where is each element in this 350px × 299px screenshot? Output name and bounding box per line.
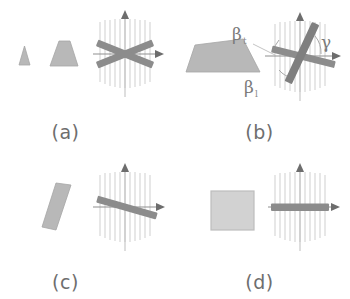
label-beta-l-sub: l — [255, 89, 258, 99]
wedge-shape — [186, 39, 260, 72]
panel-c-caption: (c) — [0, 271, 153, 293]
figure-canvas: (a) — [0, 0, 350, 299]
square-shape — [211, 191, 254, 230]
vertical-arrow-icon — [296, 163, 304, 172]
horizontal-arrow-icon — [155, 50, 164, 58]
label-beta-l: β — [244, 77, 254, 97]
label-beta-t: β — [232, 24, 242, 44]
triangle-shape — [19, 46, 30, 65]
horizontal-arrow-icon — [331, 203, 340, 211]
panel-d: (d) — [175, 150, 350, 299]
label-gamma: γ — [321, 32, 331, 52]
vertical-arrow-icon — [121, 10, 129, 19]
parallelogram-shape — [42, 183, 71, 230]
horizontal-arrow-icon — [332, 52, 341, 60]
panel-d-caption: (d) — [172, 271, 347, 293]
panel-a-caption: (a) — [0, 121, 153, 143]
vertical-arrow-icon — [296, 12, 304, 21]
trapezoid-shape — [50, 41, 78, 66]
panel-b: β t β l γ (b) — [175, 0, 350, 149]
bar-horizontal — [271, 204, 329, 212]
horizontal-arrow-icon — [156, 203, 165, 211]
panel-b-caption: (b) — [172, 121, 347, 143]
vertical-arrow-icon — [121, 163, 129, 172]
panel-a: (a) — [0, 0, 175, 149]
label-beta-t-sub: t — [243, 36, 247, 46]
panel-c: (c) — [0, 150, 175, 299]
leader-line-beta-t — [253, 44, 275, 55]
